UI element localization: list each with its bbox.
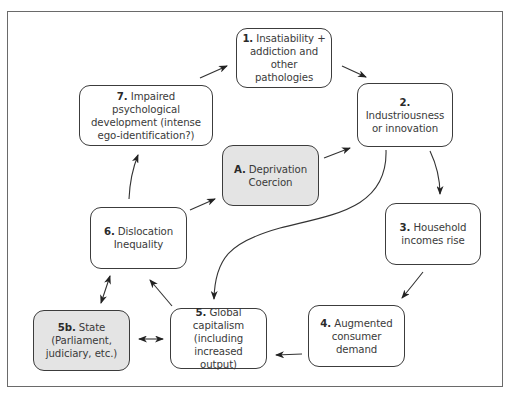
node-4-consumer-demand: 4. Augmented consumer demand [308,305,405,367]
node-text: Augmented [334,318,392,329]
arrow-4-to-5 [276,354,302,355]
node-A-deprivation: A. Deprivation Coercion [222,145,319,206]
arrow-2-to-3 [430,151,440,194]
arrow-6-5b-bidirectional [101,276,110,303]
node-text: judiciary, etc.) [46,348,117,359]
node-text: Coercion [249,177,293,188]
node-number: 7. [117,91,128,102]
node-number: 6. [104,226,115,237]
arrow-5-to-6 [150,280,172,306]
node-number: 5b. [58,322,76,333]
node-text: (including [194,333,243,344]
node-text: Inequality [114,239,164,250]
node-number: 1. [242,33,253,44]
node-text: demand [336,344,377,355]
arrow-A-to-2 [324,148,350,158]
node-text: Dislocation [118,226,173,237]
node-1-insatiability: 1. Insatiability + addiction and other p… [236,28,332,88]
node-text: increased output) [194,346,243,370]
node-text: incomes rise [401,235,464,246]
arrow-6-to-A [190,199,215,210]
node-number: 5. [196,307,207,318]
node-number: 4. [320,318,331,329]
node-text: Insatiability + [256,33,325,44]
arrow-6-to-7 [129,155,138,199]
node-text: consumer [332,331,382,342]
node-text: Global [210,307,242,318]
node-text: other pathologies [255,59,313,83]
node-text: Deprivation [249,164,307,175]
node-text: ego-identification?) [98,130,195,141]
arrow-3-to-4 [402,272,423,298]
node-text: development (intense [91,117,201,128]
node-text: addiction and [250,46,318,57]
node-6-dislocation: 6. Dislocation Inequality [90,207,187,269]
node-number: 3. [400,222,411,233]
node-2-industriousness: 2. Industriousness or innovation [357,83,453,147]
node-7-impaired-development: 7. Impaired psychological development (i… [79,85,213,146]
node-text: Household [413,222,466,233]
arrow-1-to-2 [342,66,366,77]
node-text: or innovation [372,123,438,134]
node-number: 2. [400,97,411,108]
node-text: State [79,322,105,333]
node-number: A. [234,164,246,175]
arrow-7-to-1 [200,66,227,78]
node-text: (Parliament, [51,335,112,346]
node-3-household-incomes: 3. Household incomes rise [385,203,481,265]
node-text: capitalism [193,320,244,331]
node-5b-state: 5b. State (Parliament, judiciary, etc.) [33,310,130,371]
node-text: Industriousness [366,110,445,121]
node-5-global-capitalism: 5. Global capitalism (including increase… [170,308,267,369]
